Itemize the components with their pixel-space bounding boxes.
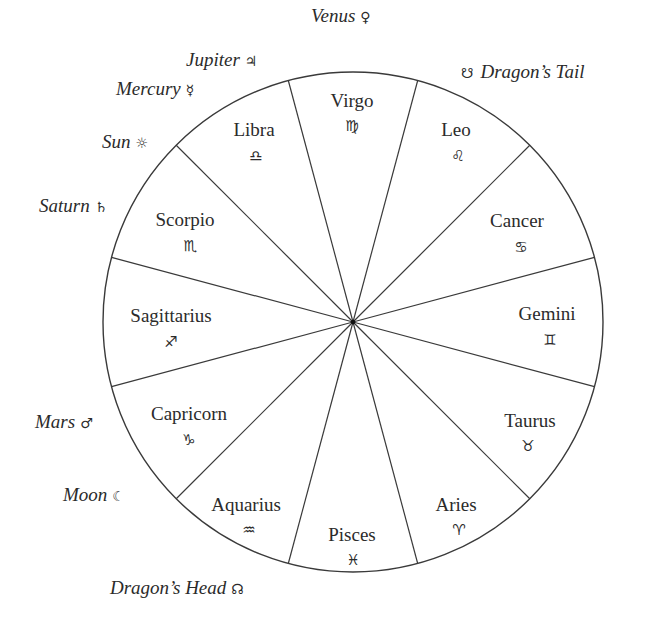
planet-label-mercury: Mercury☿︎: [116, 78, 194, 100]
pisces-glyph-icon: ♓︎: [346, 551, 359, 569]
saturn-symbol-icon: ♄︎: [95, 199, 108, 215]
planet-label-dragons-tail: ☋︎Dragon’s Tail: [461, 61, 584, 83]
planet-name: Saturn: [39, 195, 90, 216]
mercury-symbol-icon: ☿︎: [186, 82, 195, 98]
gemini-glyph-icon: ♊︎: [543, 331, 556, 349]
spoke-line: [353, 81, 418, 322]
venus-symbol-icon: ♀︎: [360, 9, 370, 25]
sign-label-pisces: Pisces: [328, 524, 376, 546]
sign-label-aquarius: Aquarius: [211, 494, 281, 516]
libra-glyph-icon: ♎︎: [249, 147, 262, 165]
spoke-line: [176, 145, 353, 322]
sagittarius-glyph-icon: ♐︎: [164, 333, 177, 351]
sign-label-libra: Libra: [233, 119, 274, 141]
planet-name: Dragon’s Head: [110, 577, 226, 598]
planet-name: Jupiter: [186, 49, 240, 70]
taurus-glyph-icon: ♉︎: [521, 437, 534, 455]
planet-name: Dragon’s Tail: [480, 61, 584, 82]
sign-label-gemini: Gemini: [519, 303, 576, 325]
planet-label-moon: Moon☾︎: [63, 484, 125, 506]
capricorn-glyph-icon: ♑︎: [182, 431, 195, 449]
sign-label-sagittarius: Sagittarius: [130, 305, 211, 327]
planet-label-venus: Venus♀︎: [311, 5, 371, 27]
spoke-line: [288, 81, 353, 322]
sign-label-virgo: Virgo: [331, 90, 374, 112]
spoke-line: [112, 322, 353, 387]
jupiter-symbol-icon: ♃︎: [245, 53, 258, 69]
aquarius-glyph-icon: ♒︎: [242, 521, 255, 539]
scorpio-glyph-icon: ♏︎: [183, 237, 196, 255]
planet-label-mars: Mars♂︎: [35, 411, 93, 433]
wheel-center-point: [351, 320, 355, 324]
sign-label-taurus: Taurus: [504, 410, 555, 432]
cancer-glyph-icon: ♋︎: [514, 238, 527, 256]
leo-glyph-icon: ♌︎: [451, 147, 464, 165]
planet-label-saturn: Saturn♄︎: [39, 195, 107, 217]
dragons-tail-symbol-icon: ☋︎: [461, 65, 473, 81]
spoke-line: [353, 322, 530, 499]
planet-name: Moon: [63, 484, 107, 505]
virgo-glyph-icon: ♍︎: [345, 117, 358, 135]
planet-name: Mercury: [116, 78, 181, 99]
sign-label-capricorn: Capricorn: [151, 403, 227, 425]
sign-label-scorpio: Scorpio: [155, 209, 214, 231]
spoke-line: [353, 145, 530, 322]
moon-symbol-icon: ☾︎: [112, 488, 125, 504]
sign-label-aries: Aries: [435, 494, 476, 516]
planet-label-dragons-head: Dragon’s Head☊︎: [110, 577, 244, 599]
dragons-head-symbol-icon: ☊︎: [231, 581, 243, 597]
spoke-line: [353, 322, 594, 387]
planet-label-sun: Sun☼︎: [102, 131, 148, 153]
planet-label-jupiter: Jupiter♃︎: [186, 49, 257, 71]
sign-label-leo: Leo: [441, 119, 471, 141]
aries-glyph-icon: ♈︎: [452, 521, 465, 539]
sun-symbol-icon: ☼︎: [136, 135, 149, 151]
planet-name: Mars: [35, 411, 75, 432]
planet-name: Venus: [311, 5, 355, 26]
sign-label-cancer: Cancer: [490, 210, 544, 232]
mars-symbol-icon: ♂︎: [80, 415, 93, 431]
planet-name: Sun: [102, 131, 131, 152]
